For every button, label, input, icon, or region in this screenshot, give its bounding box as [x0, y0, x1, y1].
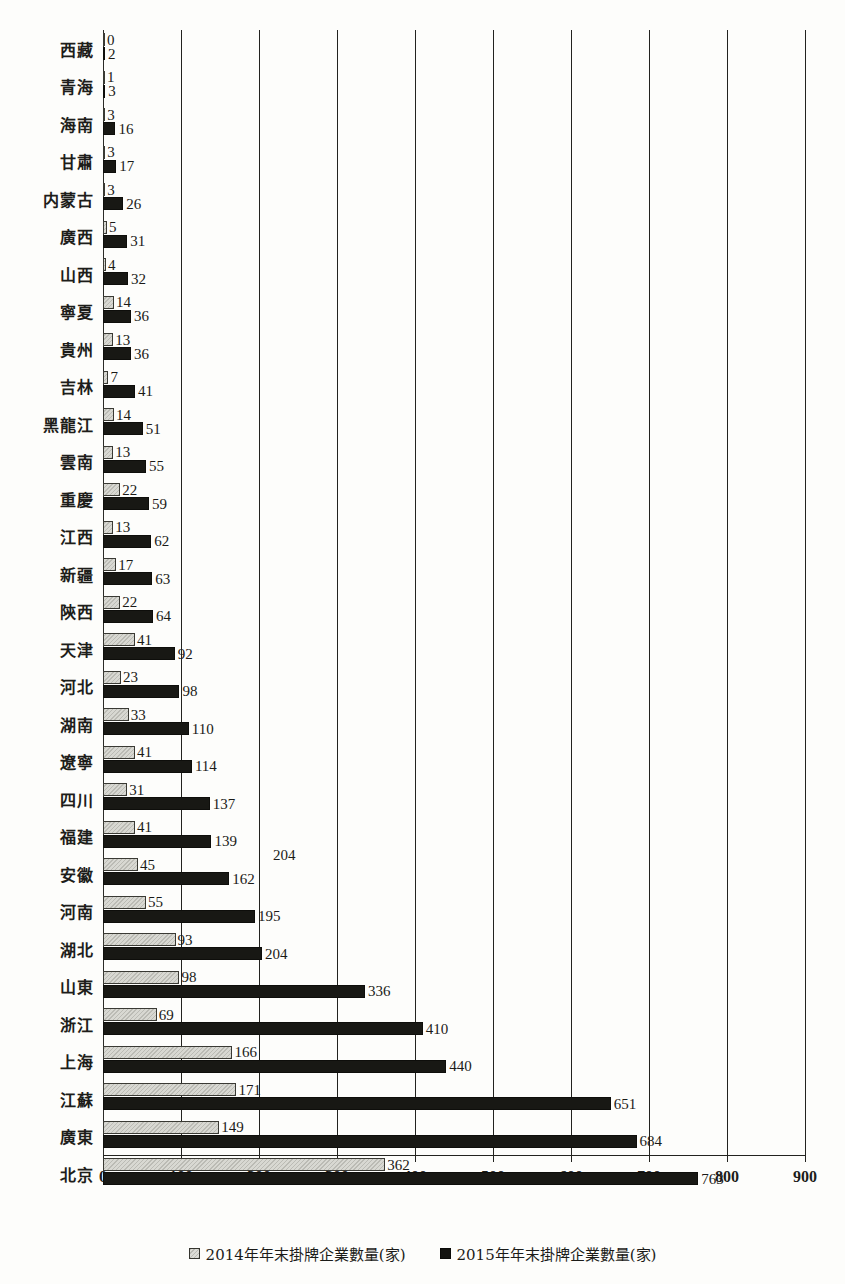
bar-2014: 14: [103, 296, 114, 309]
bar-2015: 17: [103, 160, 116, 173]
tick-900: [805, 1155, 806, 1162]
bar-value-label: 362: [387, 1156, 410, 1173]
category-label: 江西: [60, 524, 94, 548]
bar-2014: 22: [103, 483, 120, 496]
bar-value-label: 137: [213, 795, 236, 812]
bar-value-label: 41: [137, 631, 152, 648]
legend-label: 2015年年末掛牌企業數量(家): [457, 1243, 657, 1264]
bar-2014: 362: [103, 1158, 385, 1171]
bar-2015: 336: [103, 985, 365, 998]
gridline-900: [805, 30, 806, 1155]
bar-2015: 55: [103, 460, 146, 473]
bar-value-label: 14: [116, 294, 131, 311]
bar-2014: 3: [103, 146, 105, 159]
bar-2014: 31: [103, 783, 127, 796]
bar-2015: 59: [103, 497, 149, 510]
bar-row: 河北2398: [103, 668, 805, 706]
bar-2014: 41: [103, 746, 135, 759]
bar-value-label: 410: [426, 1020, 449, 1037]
bar-2014: 149: [103, 1121, 219, 1134]
bar-2015: 63: [103, 572, 152, 585]
bar-value-label: 684: [640, 1133, 663, 1150]
bar-value-label: 14: [116, 406, 131, 423]
bar-value-label: 93: [178, 931, 193, 948]
bar-2014: 3: [103, 183, 105, 196]
category-label: 寧夏: [60, 299, 94, 323]
bar-value-label: 62: [154, 533, 169, 550]
category-label: 天津: [60, 637, 94, 661]
category-label: 廣東: [60, 1124, 94, 1148]
bar-value-label: 31: [130, 233, 145, 250]
bar-value-label: 55: [149, 458, 164, 475]
bar-2014: 69: [103, 1008, 157, 1021]
bar-value-label: 98: [181, 969, 196, 986]
bar-2014: 4: [103, 258, 106, 271]
category-label: 四川: [60, 787, 94, 811]
bar-row: 海南316: [103, 105, 805, 143]
bar-value-label: 5: [109, 219, 117, 236]
bar-value-label: 162: [232, 870, 255, 887]
bar-2014: 41: [103, 821, 135, 834]
bar-2015: 16: [103, 122, 115, 135]
category-label: 湖南: [60, 712, 94, 736]
bar-row: 安徽45162: [103, 855, 805, 893]
bar-row: 天津4192: [103, 630, 805, 668]
category-label: 陝西: [60, 599, 94, 623]
category-label: 青海: [60, 74, 94, 98]
category-label: 江蘇: [60, 1087, 94, 1111]
bar-value-label: 204: [265, 945, 288, 962]
category-label: 内蒙古: [43, 187, 94, 211]
bar-2015: 36: [103, 347, 131, 360]
stray-value-label: 204: [273, 847, 296, 864]
bar-2015: 651: [103, 1097, 611, 1110]
bar-row: 山東98336: [103, 968, 805, 1006]
category-label: 湖北: [60, 937, 94, 961]
bar-value-label: 110: [192, 720, 214, 737]
bar-value-label: 139: [214, 833, 237, 850]
bar-value-label: 336: [368, 983, 391, 1000]
legend-item[interactable]: 2014年年末掛牌企業數量(家): [189, 1243, 406, 1264]
category-label: 海南: [60, 112, 94, 136]
category-label: 貴州: [60, 337, 94, 361]
category-label: 山東: [60, 974, 94, 998]
bar-2014: 13: [103, 333, 113, 346]
bar-value-label: 41: [137, 744, 152, 761]
bar-value-label: 4: [108, 256, 116, 273]
bar-row: 湖北93204: [103, 930, 805, 968]
bar-value-label: 41: [137, 819, 152, 836]
bar-2015: 51: [103, 422, 143, 435]
bar-2015: 410: [103, 1022, 423, 1035]
category-label: 吉林: [60, 374, 94, 398]
legend-item[interactable]: 2015年年末掛牌企業數量(家): [440, 1243, 657, 1264]
bar-2015: 139: [103, 835, 211, 848]
bar-value-label: 22: [122, 594, 137, 611]
bar-2015: 36: [103, 310, 131, 323]
bar-value-label: 13: [115, 444, 130, 461]
bar-value-label: 3: [107, 144, 115, 161]
bar-2015: 92: [103, 647, 175, 660]
bar-value-label: 23: [123, 669, 138, 686]
bar-value-label: 98: [182, 683, 197, 700]
bar-row: 青海13: [103, 68, 805, 106]
category-label: 甘肅: [60, 149, 94, 173]
bar-2015: 763: [103, 1172, 698, 1185]
chart-legend: 2014年年末掛牌企業數量(家)2015年年末掛牌企業數量(家): [0, 1243, 845, 1264]
category-label: 西藏: [60, 37, 94, 61]
bar-value-label: 114: [195, 758, 217, 775]
bar-2014: 41: [103, 633, 135, 646]
category-label: 北京: [60, 1162, 94, 1186]
bar-2015: 204: [103, 947, 262, 960]
bar-2015: 684: [103, 1135, 637, 1148]
bar-2014: 98: [103, 971, 179, 984]
bar-value-label: 171: [238, 1081, 261, 1098]
bar-value-label: 166: [234, 1044, 257, 1061]
category-label: 浙江: [60, 1012, 94, 1036]
bar-value-label: 36: [134, 308, 149, 325]
bar-2014: 13: [103, 446, 113, 459]
bar-2014: 93: [103, 933, 176, 946]
category-label: 上海: [60, 1049, 94, 1073]
bar-2015: 98: [103, 685, 179, 698]
hatched-square-icon: [189, 1248, 200, 1259]
bar-value-label: 45: [140, 856, 155, 873]
bar-value-label: 17: [118, 556, 133, 573]
